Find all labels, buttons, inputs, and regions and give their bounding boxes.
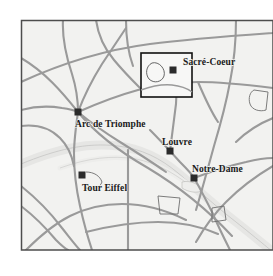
marker-sacre-coeur [170, 67, 177, 74]
label-louvre: Louvre [162, 137, 192, 147]
marker-notre-dame [191, 175, 198, 182]
label-arc-de-triomphe: Arc de Triomphe [75, 119, 146, 129]
paris-landmark-map: Sacré-Coeur Arc de Triomphe Louvre Notre… [0, 0, 273, 276]
label-notre-dame: Notre-Dame [192, 164, 243, 174]
marker-tour-eiffel [79, 172, 86, 179]
label-tour-eiffel: Tour Eiffel [82, 183, 127, 193]
label-sacre-coeur: Sacré-Coeur [183, 57, 235, 67]
map-canvas [0, 0, 273, 276]
marker-arc-de-triomphe [75, 109, 82, 116]
marker-louvre [167, 148, 174, 155]
